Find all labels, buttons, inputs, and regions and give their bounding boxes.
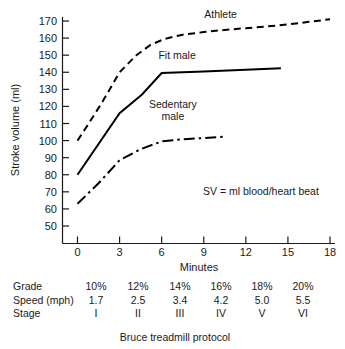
y-tick-label: 110 [39,118,57,130]
x-tick-label: 3 [117,246,123,258]
table-cell: 5.0 [255,294,270,306]
x-tick-label: 12 [240,246,252,258]
table-cell: 1.7 [89,294,104,306]
table-row-label: Speed (mph) [13,294,74,306]
table-cell: 14% [169,280,190,292]
series-label-fit-male: Fit male [158,49,196,61]
series-label-sedentary-male: male [162,110,185,122]
table-cell: 20% [292,280,313,292]
series-label-sedentary-male: Sedentary [149,98,198,110]
x-tick-label: 18 [324,246,336,258]
stroke-volume-chart-figure: 5060708090100110120130140150160170 03691… [0,0,345,349]
x-tick-label: 15 [282,246,294,258]
y-tick-label: 70 [45,186,57,198]
table-cell: 2.5 [131,294,146,306]
y-tick-label: 140 [39,66,57,78]
table-cell: 3.4 [173,294,188,306]
axes-group [63,17,336,244]
series-curve-athlete [78,19,331,140]
y-tick-label: 150 [39,49,57,61]
y-tick-label: 100 [39,135,57,147]
table-cell: I [95,307,98,319]
table-cell: 4.2 [214,294,229,306]
table-row-label: Grade [13,280,42,292]
y-tick-label: 90 [45,152,57,164]
y-tick-label: 130 [39,83,57,95]
y-tick-label: 50 [45,220,57,232]
sv-definition-annotation: SV = ml blood/heart beat [203,185,319,197]
chart-canvas: 5060708090100110120130140150160170 03691… [0,0,345,349]
series-labels-group: AthleteFit maleSedentarymale [149,8,237,123]
table-cell: 12% [127,280,148,292]
y-axis-ticks: 5060708090100110120130140150160170 [39,15,69,232]
y-tick-label: 80 [45,169,57,181]
table-cell: II [135,307,141,319]
table-cell: VI [298,307,308,319]
y-tick-label: 160 [39,32,57,44]
series-label-athlete: Athlete [204,8,237,20]
x-tick-label: 6 [159,246,165,258]
table-cell: III [176,307,185,319]
y-tick-label: 60 [45,203,57,215]
x-axis-title: Minutes [180,261,219,273]
table-cell: IV [216,307,226,319]
bruce-protocol-table: Grade10%12%14%16%18%20%Speed (mph)1.72.5… [13,280,314,319]
table-cell: 5.5 [296,294,311,306]
data-series-group [78,19,331,204]
x-axis-ticks: 0369121518 [74,237,336,259]
y-tick-label: 170 [39,15,57,27]
table-row-label: Stage [13,307,41,319]
table-cell: 16% [210,280,231,292]
y-axis-title: Stroke volume (ml) [9,84,21,176]
series-curve-sedentary-male [78,137,224,204]
table-cell: V [258,307,265,319]
table-caption: Bruce treadmill protocol [120,331,230,343]
x-tick-label: 9 [201,246,207,258]
table-cell: 18% [251,280,272,292]
y-tick-label: 120 [39,100,57,112]
x-tick-label: 0 [74,246,80,258]
table-cell: 10% [85,280,106,292]
